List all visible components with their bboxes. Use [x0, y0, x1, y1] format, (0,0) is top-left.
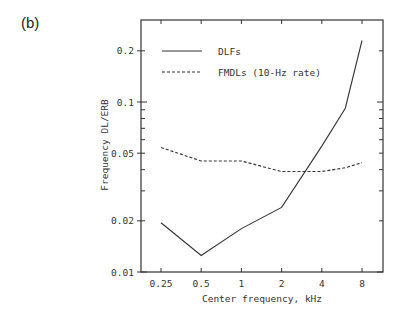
plot-border	[141, 20, 383, 272]
x-tick-label: 2	[279, 278, 285, 289]
x-tick-label: 0.5	[193, 278, 210, 289]
y-axis: 0.010.020.050.10.2	[111, 45, 383, 277]
plot-frame	[141, 20, 383, 272]
y-tick-label: 0.02	[111, 215, 134, 226]
x-axis-title: Center frequency, kHz	[202, 293, 322, 304]
legend-label: FMDLs (10-Hz rate)	[218, 67, 321, 78]
y-tick-label: 0.01	[111, 267, 134, 278]
y-tick-label: 0.05	[111, 148, 134, 159]
x-tick-label: 1	[239, 278, 245, 289]
y-tick-label: 0.1	[117, 97, 134, 108]
x-tick-label: 8	[359, 278, 365, 289]
x-tick-label: 0.25	[150, 278, 173, 289]
legend-label: DLFs	[218, 46, 241, 57]
series-fmdls-line	[161, 148, 362, 172]
x-tick-label: 4	[319, 278, 325, 289]
legend: DLFsFMDLs (10-Hz rate)	[162, 46, 321, 78]
y-axis-title: Frequency DL/ERB	[99, 99, 110, 191]
line-chart: 0.250.51248 0.010.020.050.10.2 DLFsFMDLs…	[0, 0, 405, 317]
y-tick-label: 0.2	[117, 45, 134, 56]
